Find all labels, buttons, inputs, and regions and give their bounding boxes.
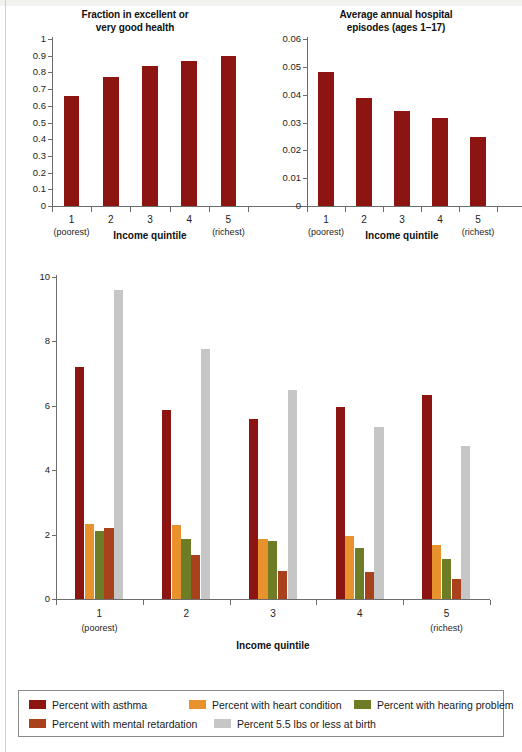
chart-legend: Percent with asthmaPercent with heart co… (18, 690, 504, 737)
legend-item-hearing: Percent with hearing problem (354, 695, 514, 714)
legend-label: Percent with heart condition (212, 699, 342, 711)
y-axis-tick (48, 39, 52, 40)
x-axis-tick (209, 207, 210, 212)
bar-percent-with-mental-retardation-q1 (104, 528, 113, 599)
legend-swatch-hearing (354, 700, 371, 709)
bar-fraction-in-excellent-or-very-good-health-q4 (181, 61, 197, 206)
legend-row: Percent with mental retardationPercent 5… (19, 714, 503, 733)
y-axis-tick-label: 0.03 (259, 118, 301, 128)
y-axis-tick (48, 189, 52, 190)
x-axis-line (307, 206, 522, 207)
bar-percent-with-hearing-problem-q3 (268, 541, 277, 599)
bar-percent-with-hearing-problem-q5 (442, 559, 451, 599)
bar-percent-with-heart-condition-q3 (258, 539, 267, 599)
x-axis-category-label: 5 (417, 608, 477, 619)
bar-percent-with-asthma-q1 (75, 367, 84, 599)
plot-area: 00.010.020.030.040.050.061(poorest)2345(… (261, 0, 522, 250)
x-axis-line (56, 599, 490, 600)
legend-swatch-asthma (29, 700, 46, 709)
bar-percent-with-heart-condition-q2 (172, 525, 181, 599)
y-axis-tick (52, 277, 56, 278)
x-axis-tick (130, 207, 131, 212)
y-axis-tick-label: 0.04 (259, 90, 301, 100)
bar-percent-5-5-lbs-or-less-at-birth-q1 (114, 290, 123, 599)
x-axis-tick (403, 600, 404, 605)
bar-average-annual-hospital-episodes-ages-1-17-q1 (318, 72, 333, 206)
y-axis-tick (52, 341, 56, 342)
y-axis-tick-label: 0.7 (4, 84, 46, 94)
bar-percent-with-mental-retardation-q2 (191, 555, 200, 599)
y-axis-tick-label: 0 (8, 594, 50, 604)
x-axis-tick (230, 600, 231, 605)
bar-percent-with-mental-retardation-q4 (365, 572, 374, 599)
bar-percent-with-mental-retardation-q5 (452, 579, 461, 599)
x-axis-tick (248, 207, 249, 212)
y-axis-tick (48, 72, 52, 73)
y-axis-tick (303, 67, 307, 68)
x-axis-tick (52, 207, 53, 212)
y-axis-line (307, 37, 308, 206)
legend-swatch-mental (29, 719, 46, 728)
y-axis-tick-label: 0.6 (4, 101, 46, 111)
bar-fraction-in-excellent-or-very-good-health-q2 (103, 77, 119, 206)
bar-fraction-in-excellent-or-very-good-health-q3 (142, 66, 158, 206)
legend-label: Percent 5.5 lbs or less at birth (237, 718, 376, 730)
x-axis-category-sublabel: (richest) (413, 623, 481, 634)
y-axis-tick (303, 123, 307, 124)
y-axis-tick (48, 123, 52, 124)
bar-average-annual-hospital-episodes-ages-1-17-q2 (356, 98, 371, 207)
x-axis-title: Income quintile (60, 230, 240, 241)
bar-percent-with-hearing-problem-q2 (181, 539, 190, 600)
x-axis-tick (459, 207, 460, 212)
x-axis-tick (316, 600, 317, 605)
bar-percent-with-hearing-problem-q1 (95, 531, 104, 599)
bar-percent-with-asthma-q5 (422, 395, 431, 600)
y-axis-tick-label: 0 (259, 201, 301, 211)
legend-item-heart: Percent with heart condition (189, 695, 342, 714)
y-axis-tick-label: 0.3 (4, 151, 46, 161)
x-axis-category-label: 3 (243, 608, 303, 619)
bar-percent-with-hearing-problem-q4 (355, 548, 364, 599)
y-axis-line (56, 275, 57, 599)
y-axis-tick-label: 4 (8, 465, 50, 475)
y-axis-tick-label: 0.8 (4, 67, 46, 77)
bar-average-annual-hospital-episodes-ages-1-17-q5 (470, 137, 485, 206)
y-axis-tick-label: 0.05 (259, 62, 301, 72)
y-axis-tick (48, 56, 52, 57)
y-axis-tick-label: 0.02 (259, 145, 301, 155)
x-axis-tick (490, 600, 491, 605)
bar-percent-5-5-lbs-or-less-at-birth-q2 (201, 349, 210, 600)
y-axis-tick-label: 0.2 (4, 168, 46, 178)
plot-area: 02468101(poorest)2345(richest)Income qui… (0, 255, 522, 675)
bar-percent-5-5-lbs-or-less-at-birth-q5 (461, 446, 470, 599)
y-axis-tick (303, 95, 307, 96)
x-axis-category-sublabel: (poorest) (65, 623, 133, 634)
x-axis-tick (91, 207, 92, 212)
figure-page: Fraction in excellent or very good healt… (0, 0, 522, 752)
x-axis-tick (383, 207, 384, 212)
x-axis-category-label: 5 (448, 214, 508, 225)
y-axis-tick-label: 6 (8, 401, 50, 411)
y-axis-tick-label: 8 (8, 336, 50, 346)
y-axis-tick-label: 0.5 (4, 118, 46, 128)
chart-child-health-conditions: 02468101(poorest)2345(richest)Income qui… (0, 255, 522, 675)
bar-percent-with-asthma-q3 (249, 419, 258, 599)
y-axis-tick (303, 178, 307, 179)
bar-average-annual-hospital-episodes-ages-1-17-q3 (394, 111, 409, 206)
legend-item-asthma: Percent with asthma (29, 695, 147, 714)
y-axis-tick (52, 535, 56, 536)
legend-swatch-heart (189, 700, 206, 709)
bar-percent-with-mental-retardation-q3 (278, 571, 287, 599)
bar-percent-5-5-lbs-or-less-at-birth-q3 (288, 390, 297, 599)
x-axis-category-label: 5 (198, 214, 258, 225)
y-axis-tick (48, 106, 52, 107)
x-axis-category-label: 4 (330, 608, 390, 619)
y-axis-tick-label: 0.1 (4, 184, 46, 194)
x-axis-tick (170, 207, 171, 212)
y-axis-tick-label: 0.9 (4, 51, 46, 61)
y-axis-line (52, 37, 53, 206)
y-axis-tick (303, 39, 307, 40)
bar-percent-with-asthma-q2 (162, 410, 171, 599)
x-axis-tick (345, 207, 346, 212)
legend-label: Percent with asthma (52, 699, 147, 711)
